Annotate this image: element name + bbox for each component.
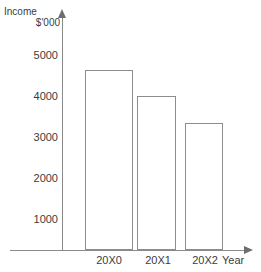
bar-20X2 bbox=[185, 123, 223, 250]
x-tick-label-0: 20X0 bbox=[84, 254, 134, 266]
x-axis-title: Year bbox=[222, 254, 244, 266]
bar-chart: Income $'000 5000 4000 3000 2000 1000 20… bbox=[0, 0, 261, 272]
bar-20X0 bbox=[85, 70, 133, 250]
bar-20X1 bbox=[137, 96, 176, 250]
bars-layer bbox=[0, 0, 261, 272]
x-tick-label-1: 20X1 bbox=[135, 254, 181, 266]
